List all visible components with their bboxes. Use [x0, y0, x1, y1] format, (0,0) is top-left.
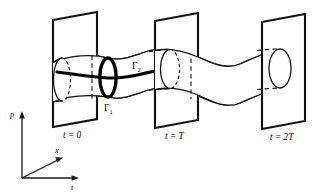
plane-t2T-face [262, 14, 305, 129]
axis-label-t: t [71, 184, 73, 192]
gamma-2-label: Γ2 [132, 61, 141, 74]
gamma-1-subscript: 1 [110, 108, 113, 115]
axis-x-arrowhead [55, 157, 63, 162]
axis-x-line [22, 160, 58, 178]
gamma-2-subscript: 2 [138, 66, 141, 73]
plane-label-tT: t = T [165, 132, 184, 141]
plane-label-t2T: t = 2T [270, 133, 293, 142]
plane-label-t0: t = 0 [63, 131, 81, 140]
plane-t2T [262, 14, 305, 129]
axis-label-x: x [55, 147, 59, 155]
axis-label-p: p [10, 111, 14, 119]
figure-canvas: t = 0 t = T t = 2T Γ1 Γ2 p x t [0, 0, 316, 195]
axis-t-arrowhead [72, 175, 79, 181]
flow-tube-diagram [0, 0, 316, 195]
gamma-1-label: Γ1 [104, 103, 113, 116]
axis-p-arrowhead [19, 111, 25, 118]
